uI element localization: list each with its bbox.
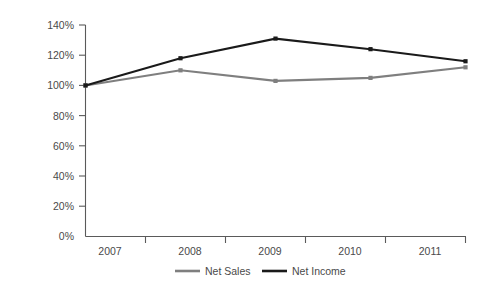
y-axis-label-40: 40% <box>53 170 74 182</box>
y-axis-label-0: 0% <box>59 230 74 242</box>
legend-label-net-income: Net Income <box>292 265 346 277</box>
data-point-net-sales-2008 <box>178 68 182 72</box>
data-point-net-income-2010 <box>368 47 372 51</box>
data-point-net-sales-2010 <box>368 76 372 80</box>
data-point-net-income-2009 <box>273 37 277 41</box>
data-point-net-sales-2011 <box>463 65 467 69</box>
data-point-net-income-2008 <box>178 56 182 60</box>
x-axis-label-2009: 2009 <box>258 245 282 257</box>
legend-label-net-sales: Net Sales <box>205 265 251 277</box>
y-axis-label-80: 80% <box>53 110 74 122</box>
y-axis-label-140: 140% <box>47 19 74 31</box>
y-axis-label-60: 60% <box>53 140 74 152</box>
data-point-net-income-2011 <box>463 59 467 63</box>
x-axis-label-2008: 2008 <box>178 245 202 257</box>
x-axis-label-2010: 2010 <box>338 245 362 257</box>
y-axis-label-20: 20% <box>53 200 74 212</box>
x-axis-label-2007: 2007 <box>98 245 122 257</box>
line-chart: 140% 120% 100% 80% 60% 40% 20% 0% 2007 2… <box>0 0 498 291</box>
chart-canvas: 140% 120% 100% 80% 60% 40% 20% 0% 2007 2… <box>0 0 498 291</box>
x-axis-label-2011: 2011 <box>419 245 442 257</box>
data-point-net-sales-2009 <box>273 79 277 83</box>
data-point-net-income-2007 <box>83 83 87 87</box>
y-axis-label-100: 100% <box>47 79 74 91</box>
y-axis-label-120: 120% <box>47 49 74 61</box>
